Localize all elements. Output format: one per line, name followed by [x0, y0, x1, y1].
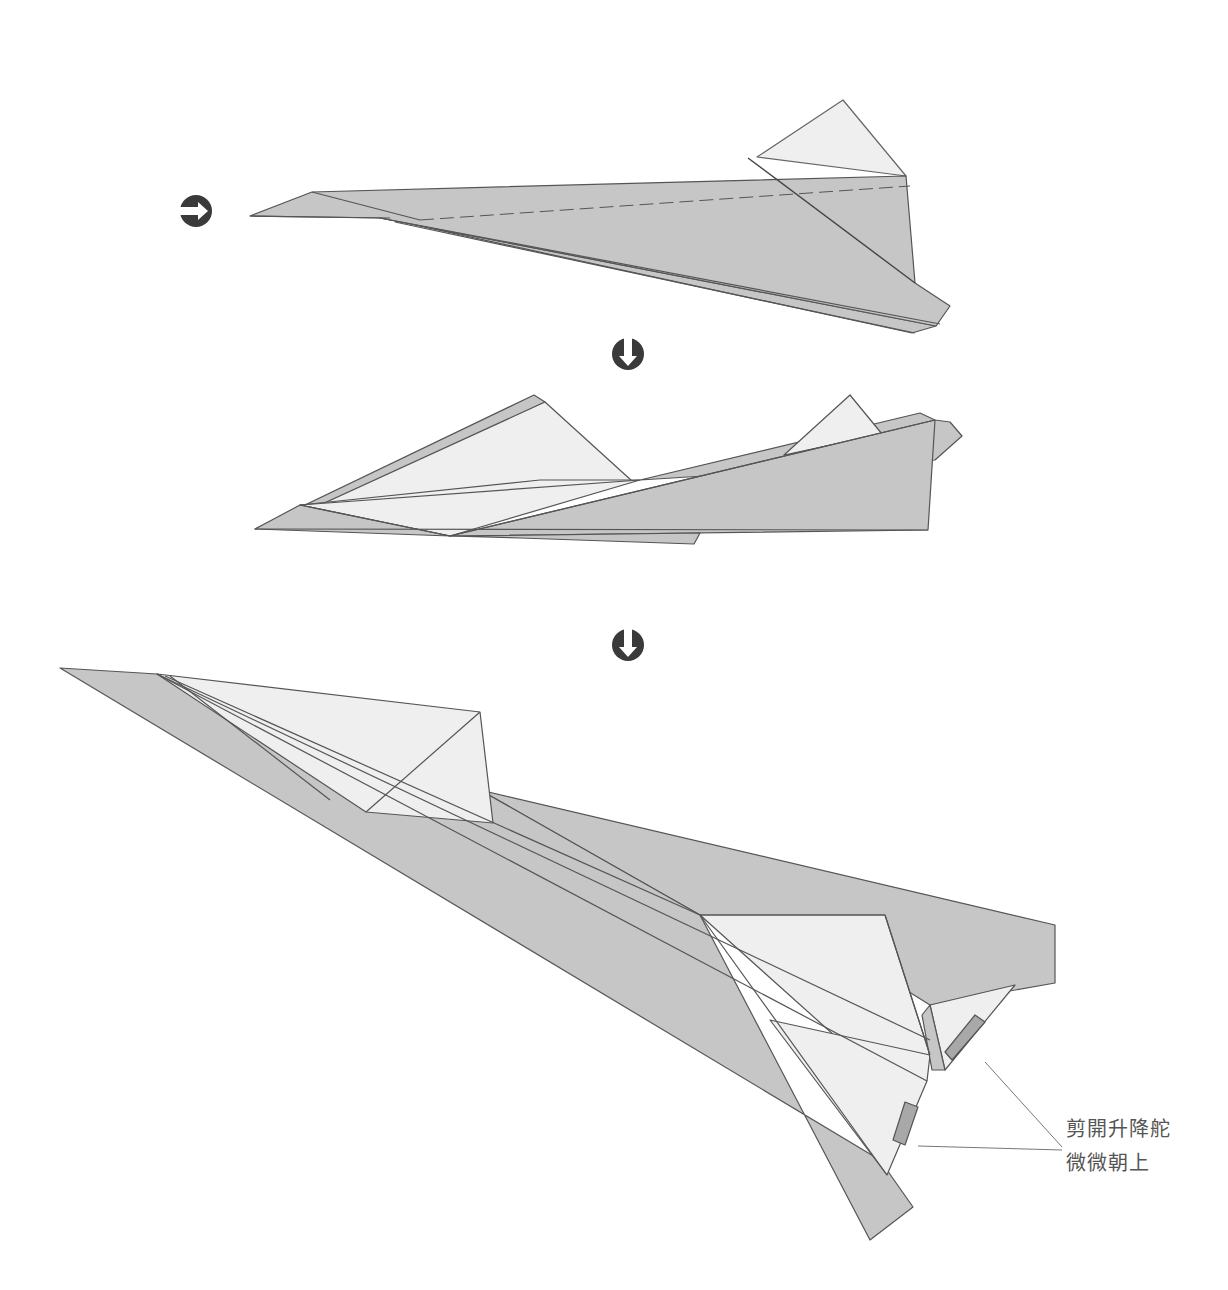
arrow-down-icon: [612, 628, 644, 661]
step-2-wings-open: [255, 395, 962, 544]
folding-diagram: 剪開升降舵 微微朝上: [0, 0, 1228, 1290]
step-1-side-view: [250, 100, 950, 333]
arrow-down-icon: [612, 337, 644, 370]
elevator-annotation: 剪開升降舵 微微朝上: [1066, 1112, 1206, 1180]
step-3-finished-airplane: [60, 668, 1062, 1240]
annotation-line-2: 微微朝上: [1066, 1146, 1206, 1180]
arrow-right-icon: [179, 195, 212, 227]
annotation-line-1: 剪開升降舵: [1066, 1112, 1206, 1146]
diagram-canvas: [0, 0, 1228, 1290]
